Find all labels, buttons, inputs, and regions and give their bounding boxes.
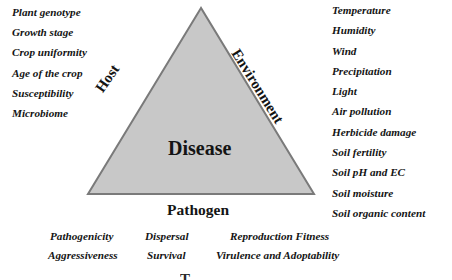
environment-factor: Soil fertility [332, 142, 425, 162]
environment-factor: Soil pH and EC [332, 162, 425, 182]
pathogen-factor: Aggressiveness [48, 249, 118, 261]
host-factor: Age of the crop [12, 63, 87, 83]
host-factor: Crop uniformity [12, 42, 87, 62]
host-factor: Susceptibility [12, 83, 87, 103]
pathogen-factor: Survival [147, 249, 186, 261]
pathogen-factor: Dispersal [145, 230, 189, 242]
host-factor: Growth stage [12, 22, 87, 42]
host-factor: Plant genotype [12, 2, 87, 22]
environment-factor: Humidity [332, 20, 425, 40]
environment-factor: Soil organic content [332, 203, 425, 223]
pathogen-factor: Pathogenicity [50, 230, 113, 242]
disease-label: Disease [168, 137, 231, 160]
environment-factor: Soil moisture [332, 183, 425, 203]
clipped-caption-fragment: T l [180, 271, 276, 280]
environment-factor: Air pollution [332, 101, 425, 121]
host-factor: Microbiome [12, 103, 87, 123]
pathogen-factor: Reproduction Fitness [230, 230, 329, 242]
environment-factor-list: Temperature Humidity Wind Precipitation … [332, 0, 425, 223]
pathogen-factor: Virulence and Adoptability [216, 249, 339, 261]
host-factor-list: Plant genotype Growth stage Crop uniform… [12, 2, 87, 123]
environment-factor: Temperature [332, 0, 425, 20]
environment-factor: Light [332, 81, 425, 101]
pathogen-label: Pathogen [167, 201, 229, 219]
environment-factor: Herbicide damage [332, 122, 425, 142]
environment-factor: Wind [332, 41, 425, 61]
environment-factor: Precipitation [332, 61, 425, 81]
triangle-shape [88, 8, 314, 194]
